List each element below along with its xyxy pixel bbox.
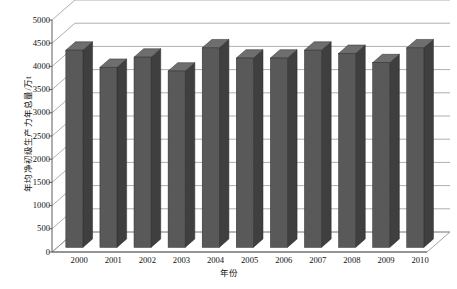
chart-container: 年均净初级生产力年总量/万t 5000450040003500300025002… [0,0,457,289]
x-axis-tick-label: 2010 [400,256,440,265]
x-axis-tick-labels: 2000200120022003200420052006200720082009… [0,0,457,289]
x-axis-title: 年份 [0,266,457,278]
